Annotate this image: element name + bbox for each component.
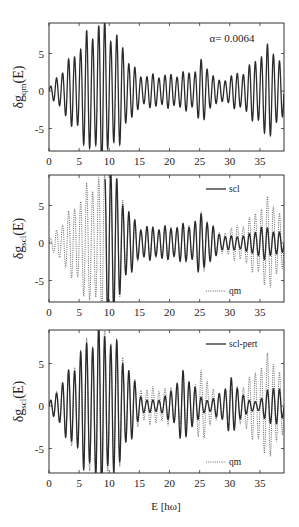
x-tick-label: 20 xyxy=(164,477,176,489)
x-tick-label: 10 xyxy=(104,306,116,318)
x-tick-label: 15 xyxy=(134,477,146,489)
y-tick-label: 5 xyxy=(39,200,45,212)
x-tick-label: 15 xyxy=(134,306,146,318)
x-tick-label: 20 xyxy=(164,306,176,318)
x-tick-label: 0 xyxy=(46,477,52,489)
legend-label-qm: qm xyxy=(229,457,242,467)
y-axis-label: δgqm(E) xyxy=(11,65,28,108)
panel-scl-pert: 05101520253035-505δgscl(E)scl-pertqm xyxy=(11,324,284,490)
y-tick-label: -5 xyxy=(35,443,45,455)
y-tick-label: 5 xyxy=(39,358,45,370)
x-tick-label: 15 xyxy=(134,155,146,167)
legend-label-scl: scl xyxy=(229,184,240,194)
x-tick-label: 20 xyxy=(164,155,176,167)
x-tick-label: 0 xyxy=(46,155,52,167)
series-scl xyxy=(105,170,284,319)
x-tick-label: 5 xyxy=(76,155,82,167)
x-tick-label: 10 xyxy=(104,477,116,489)
x-tick-label: 30 xyxy=(224,477,236,489)
y-axis-label: δgscl(E) xyxy=(11,380,28,422)
y-tick-label: 0 xyxy=(39,400,45,412)
y-tick-label: 5 xyxy=(39,48,45,60)
x-tick-label: 10 xyxy=(104,155,116,167)
legend-label-qm: qm xyxy=(229,286,242,296)
x-tick-label: 35 xyxy=(254,155,266,167)
legend-label-scl-pert: scl-pert xyxy=(229,339,258,349)
panel-scl: 05101520253035-505δgscl(E)sclqm xyxy=(11,170,284,319)
panel-qm: 05101520253035-505δgqm(E)α= 0.0064 xyxy=(11,21,284,167)
y-tick-label: 0 xyxy=(39,85,45,97)
x-tick-label: 35 xyxy=(254,306,266,318)
y-axis-label: δgscl(E) xyxy=(11,217,28,259)
x-tick-label: 35 xyxy=(254,477,266,489)
x-tick-label: 25 xyxy=(194,306,206,318)
x-tick-label: 5 xyxy=(76,477,82,489)
figure: 05101520253035-505δgqm(E)α= 0.0064 05101… xyxy=(0,0,299,527)
y-tick-label: -5 xyxy=(35,123,45,135)
x-tick-label: 25 xyxy=(194,477,206,489)
x-tick-label: 30 xyxy=(224,306,236,318)
y-tick-label: 0 xyxy=(39,237,45,249)
x-tick-label: 0 xyxy=(46,306,52,318)
x-tick-label: 25 xyxy=(194,155,206,167)
x-tick-label: 30 xyxy=(224,155,236,167)
x-axis-label: E [hω] xyxy=(151,500,181,512)
x-tick-label: 5 xyxy=(76,306,82,318)
y-tick-label: -5 xyxy=(35,275,45,287)
alpha-annotation: α= 0.0064 xyxy=(210,32,255,44)
